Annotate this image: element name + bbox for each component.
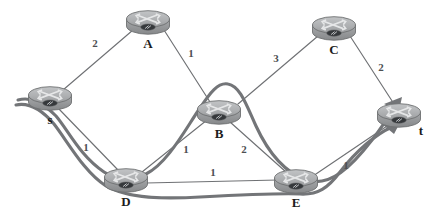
router-icon[interactable] [198,101,241,125]
edge-weight-A-B: 1 [188,48,194,59]
node-label-E: E [292,196,301,209]
edge-weight-C-t: 2 [378,62,384,73]
edge-s-D [58,108,118,170]
node-label-A: A [143,37,152,50]
edge-C-t [350,36,394,104]
router-icon[interactable] [105,169,148,193]
edge-weight-s-D: 1 [83,142,89,153]
router-icon[interactable] [313,17,356,41]
node-label-C: C [329,43,338,56]
router-icon[interactable] [378,104,421,128]
router-icon[interactable] [29,87,72,111]
node-icon-layer [29,11,421,194]
edge-D-E [146,180,278,183]
edge-A-B [164,30,210,102]
edge-weight-B-C: 3 [273,53,279,64]
router-icon[interactable] [127,11,170,35]
network-flow-diagram: s A C B t D E 2 1 3 2 1 1 2 1 1 [0,0,439,221]
diagram-canvas [0,0,439,221]
router-icon[interactable] [275,170,318,194]
edge-weight-D-E: 1 [210,167,216,178]
edge-weight-B-E: 2 [241,144,247,155]
edge-weight-D-B: 1 [183,144,189,155]
edge-B-C [238,36,318,104]
node-label-t: t [419,124,423,137]
node-label-B: B [215,127,224,140]
edge-weight-s-A: 2 [92,38,98,49]
node-label-D: D [121,195,130,208]
edge-weight-E-t: 1 [343,160,349,171]
flow-path-upper [18,84,396,182]
node-label-s: s [47,113,52,126]
